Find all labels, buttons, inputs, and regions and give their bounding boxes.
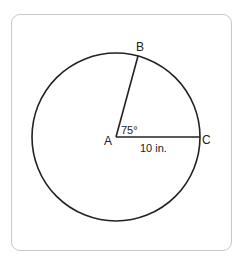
radius-label: 10 in. [140,142,167,154]
circle-diagram: B A C 75° 10 in. [0,0,244,258]
label-a: A [104,134,112,148]
label-c: C [202,133,211,147]
angle-label: 75° [121,124,138,136]
label-b: B [136,40,144,54]
